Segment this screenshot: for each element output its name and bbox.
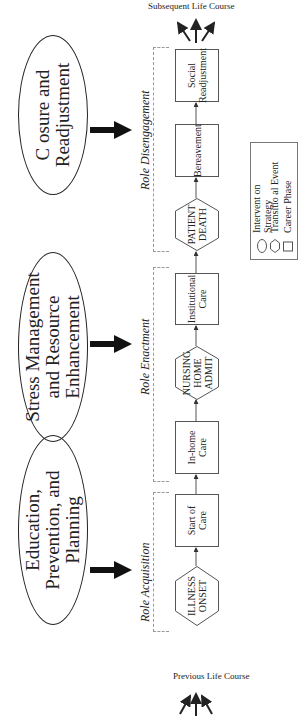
- step-patient-death-hexagon: PATIENT DEATH: [175, 198, 219, 251]
- caregiving-career-diagram: Previous Life Course Education, Preventi…: [0, 0, 307, 720]
- legend: Intervent on Strategy Transitio al Event…: [250, 142, 298, 260]
- intervention-arrows: [88, 0, 138, 720]
- step-in-home-care-box: In-home Care: [175, 421, 219, 474]
- legend-label: Transitio al Event: [269, 162, 280, 233]
- step-label: ILLNESS ONSET: [175, 566, 219, 626]
- legend-item-transitional-event: Transitio al Event: [268, 149, 281, 253]
- step-start-of-care-box: Start of Care: [175, 494, 219, 547]
- role-acquisition-bracket: [153, 492, 169, 632]
- square-icon: [283, 239, 293, 253]
- oval-icon: [257, 239, 267, 253]
- intervention-education-oval: Education, Prevention, and Planning: [18, 435, 88, 625]
- legend-item-career-phase: Career Phase: [281, 149, 294, 253]
- step-label: NURSING HOME ADMIT: [175, 346, 219, 400]
- legend-label: Career Phase: [282, 181, 293, 233]
- role-enactment-bracket: [153, 267, 169, 482]
- legend-item-intervention: Intervent on Strategy: [255, 149, 268, 253]
- step-label: PATIENT DEATH: [175, 198, 219, 251]
- intervention-closure-oval: C osure and Readjustment: [18, 35, 88, 195]
- role-acquisition-label: Role Acquisition: [138, 543, 153, 622]
- step-bereavement-box: Bereavement: [175, 124, 219, 177]
- step-social-readjustment-box: Social Readjustment: [175, 49, 219, 102]
- intervention-stress-management-oval: Stress Management and Resource Enhanceme…: [18, 252, 88, 442]
- role-enactment-label: Role Enactment: [138, 319, 153, 395]
- role-disengagement-bracket: [153, 47, 169, 252]
- step-nursing-home-admit-hexagon: NURSING HOME ADMIT: [175, 346, 219, 400]
- hexagon-icon: [270, 239, 280, 253]
- step-illness-onset-hexagon: ILLNESS ONSET: [175, 566, 219, 626]
- step-institutional-care-box: Institutional Care: [175, 273, 219, 325]
- subsequent-life-course-label: Subsequent Life Course: [148, 1, 248, 11]
- role-disengagement-label: Role Disengagement: [138, 90, 153, 190]
